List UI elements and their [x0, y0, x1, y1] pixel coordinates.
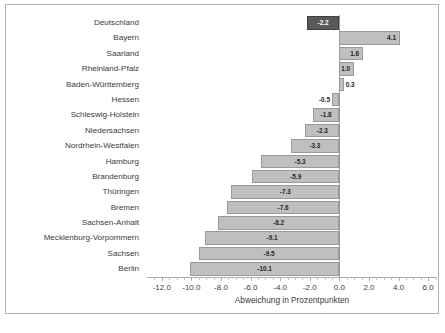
bar-value-label: 4.1 [387, 31, 396, 45]
x-axis-title: Abweichung in Prozentpunkten [147, 295, 437, 305]
bar-value-label: 1.0 [341, 62, 350, 76]
category-label: Baden-Württemberg [16, 77, 143, 92]
axis-tick-major [369, 277, 370, 281]
axis-tick-minor [228, 277, 229, 280]
bar-value-label: -9.1 [267, 231, 278, 245]
axis-tick-minor [325, 277, 326, 280]
axis-tick-minor [347, 277, 348, 280]
axis-tick-major [339, 277, 340, 281]
category-label: Bayern [16, 30, 143, 45]
category-label: Nordrhein-Westfalen [16, 138, 143, 153]
axis-tick-minor [317, 277, 318, 280]
axis-tick-major [162, 277, 163, 281]
axis-tick-minor [436, 277, 437, 280]
bar-value-label: -9.5 [264, 247, 275, 261]
category-axis-labels: DeutschlandBayernSaarlandRheinland-Pfalz… [16, 15, 143, 277]
bar-value-label: 0.3 [346, 78, 355, 92]
axis-tick-minor [288, 277, 289, 280]
category-label: Brandenburg [16, 169, 143, 184]
bar-row: 1.0 [147, 61, 437, 76]
axis-tick-label: -10.0 [182, 283, 200, 292]
bar-row: -9.1 [147, 230, 437, 245]
axis-tick-major [428, 277, 429, 281]
axis-tick-label: 2.0 [363, 283, 374, 292]
axis-tick-minor [376, 277, 377, 280]
bar-value-label: -10.1 [257, 262, 272, 276]
chart-frame: DeutschlandBayernSaarlandRheinland-Pfalz… [5, 4, 439, 314]
axis-tick-minor [236, 277, 237, 280]
bar-value-label: -0.5 [319, 93, 330, 107]
chart-figure: DeutschlandBayernSaarlandRheinland-Pfalz… [0, 0, 445, 333]
bar-row: -5.3 [147, 154, 437, 169]
axis-tick-minor [354, 277, 355, 280]
category-label: Berlin [16, 261, 143, 276]
axis-tick-minor [243, 277, 244, 280]
category-label: Sachsen [16, 246, 143, 261]
axis-tick-minor [413, 277, 414, 280]
axis-tick-label: 4.0 [393, 283, 404, 292]
axis-tick-minor [214, 277, 215, 280]
axis-tick-major [310, 277, 311, 281]
bar-value-label: -5.9 [290, 170, 301, 184]
bar-row: 4.1 [147, 30, 437, 45]
bar-row: -7.3 [147, 184, 437, 199]
axis-tick-minor [206, 277, 207, 280]
axis-tick-major [221, 277, 222, 281]
bar-row: -1.8 [147, 107, 437, 122]
category-label: Deutschland [16, 15, 143, 30]
axis-tick-label: -2.0 [303, 283, 317, 292]
axis-tick-label: -12.0 [153, 283, 171, 292]
bar-row: -9.5 [147, 246, 437, 261]
category-label: Hamburg [16, 154, 143, 169]
axis-tick-label: 6.0 [423, 283, 434, 292]
axis-tick-minor [184, 277, 185, 280]
bar-row: -3.3 [147, 138, 437, 153]
category-label: Rheinland-Pfalz [16, 61, 143, 76]
bar-value-label: 1.6 [350, 47, 359, 61]
x-axis: -12.0-10.0-8.0-6.0-4.0-2.00.02.04.06.0 [147, 277, 437, 278]
bar-row: -2.2 [147, 15, 437, 30]
axis-tick-minor [154, 277, 155, 280]
axis-tick-minor [258, 277, 259, 280]
category-label: Niedersachsen [16, 123, 143, 138]
bar-value-label: -3.3 [309, 139, 320, 153]
axis-tick-label: -6.0 [244, 283, 258, 292]
axis-tick-minor [295, 277, 296, 280]
bar-value-label: -2.3 [317, 124, 328, 138]
category-label: Hessen [16, 92, 143, 107]
bar-row: 0.3 [147, 77, 437, 92]
axis-tick-minor [199, 277, 200, 280]
axis-tick-minor [362, 277, 363, 280]
axis-tick-minor [406, 277, 407, 280]
axis-tick-minor [177, 277, 178, 280]
bar-value-label: -1.8 [321, 108, 332, 122]
bar[interactable] [332, 93, 339, 107]
bar-value-label: -5.3 [295, 155, 306, 169]
axis-tick-major [191, 277, 192, 281]
category-label: Bremen [16, 200, 143, 215]
axis-tick-minor [332, 277, 333, 280]
category-label: Schleswig-Holstein [16, 107, 143, 122]
axis-tick-minor [391, 277, 392, 280]
axis-tick-minor [384, 277, 385, 280]
axis-tick-major [280, 277, 281, 281]
axis-tick-label: -8.0 [214, 283, 228, 292]
bar-value-label: -2.2 [318, 16, 329, 30]
category-label: Mecklenburg-Vorpommern [16, 230, 143, 245]
plot-area: -2.24.11.61.00.3-0.5-1.8-2.3-3.3-5.3-5.9… [147, 15, 437, 277]
category-label: Sachsen-Anhalt [16, 215, 143, 230]
bar-row: 1.6 [147, 46, 437, 61]
axis-tick-major [399, 277, 400, 281]
bar-row: -5.9 [147, 169, 437, 184]
axis-tick-major [251, 277, 252, 281]
bar-row: -7.6 [147, 200, 437, 215]
bar-row: -0.5 [147, 92, 437, 107]
axis-tick-label: 0.0 [334, 283, 345, 292]
axis-tick-minor [265, 277, 266, 280]
bar-row: -2.3 [147, 123, 437, 138]
category-label: Saarland [16, 46, 143, 61]
category-label: Thüringen [16, 184, 143, 199]
bar-row: -10.1 [147, 261, 437, 276]
bar[interactable] [339, 78, 343, 92]
bar-value-label: -7.3 [280, 185, 291, 199]
